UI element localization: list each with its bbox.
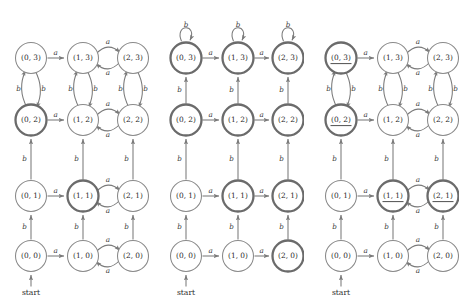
edge-1-1-2-1-a: a <box>406 175 430 192</box>
state-node-2-1[interactable]: (2, 1) <box>273 181 304 212</box>
edge-label-a: a <box>106 99 110 108</box>
state-node-0-2[interactable]: (0, 2) <box>16 105 47 136</box>
edge-1-1-2-1-a: a <box>255 186 270 196</box>
edge-0-3-1-3-a: a <box>203 48 220 58</box>
edge-label-a: a <box>416 68 420 77</box>
edge-label-b: b <box>177 154 182 163</box>
edge-label-a: a <box>260 110 264 119</box>
edge-2-3-1-3-a: a <box>406 62 430 77</box>
state-node-1-3[interactable]: (1, 3) <box>68 43 99 74</box>
state-label: (1, 1) <box>383 191 403 200</box>
start-marker: start <box>177 275 195 297</box>
edge-1-2-2-2-a: a <box>96 99 120 116</box>
state-node-0-3[interactable]: (0, 3) <box>16 43 47 74</box>
state-node-1-2[interactable]: (1, 2) <box>378 105 409 136</box>
state-node-1-0[interactable]: (1, 0) <box>378 241 409 272</box>
start-marker: start <box>22 275 40 297</box>
state-label: (1, 2) <box>228 115 248 124</box>
edge-label-b: b <box>332 222 337 231</box>
state-node-0-0[interactable]: (0, 0) <box>16 241 47 272</box>
state-node-2-1[interactable]: (2, 1) <box>118 181 149 212</box>
edge-label-b: b <box>229 154 234 163</box>
state-node-0-1[interactable]: (0, 1) <box>171 181 202 212</box>
edge-2-0-2-1-b: b <box>124 215 133 240</box>
edge-label-a: a <box>364 246 368 255</box>
edge-label-a: a <box>260 186 264 195</box>
edge-0-1-0-2-b: b <box>332 139 341 180</box>
edge-0-0-0-1-b: b <box>332 215 341 240</box>
state-node-1-3[interactable]: (1, 3) <box>378 43 409 74</box>
edge-label-a: a <box>54 48 58 57</box>
edge-path <box>447 71 452 108</box>
edge-label-b: b <box>434 154 439 163</box>
state-node-2-2[interactable]: (2, 2) <box>273 105 304 136</box>
nodes-layer: start(0, 3)(1, 3)(2, 3)(0, 2)(1, 2)(2, 2… <box>16 43 149 298</box>
edge-label-a: a <box>416 266 420 275</box>
edge-path <box>282 28 294 41</box>
state-label: (0, 0) <box>331 251 351 260</box>
figure-canvas: aaaaaaaaaaaabbbbbbbbbbbbstart(0, 3)(1, 3… <box>0 0 459 304</box>
edge-path <box>406 47 430 54</box>
state-node-1-1[interactable]: (1, 1) <box>223 181 254 212</box>
edge-1-0-1-1-b: b <box>384 215 393 240</box>
state-node-0-1[interactable]: (0, 1) <box>16 181 47 212</box>
edge-0-3-0-2-b: b <box>345 71 356 108</box>
edge-2-3-2-2-b: b <box>447 71 458 108</box>
state-node-2-0[interactable]: (2, 0) <box>118 241 149 272</box>
state-node-1-0[interactable]: (1, 0) <box>223 241 254 272</box>
state-node-2-3[interactable]: (2, 3) <box>118 43 149 74</box>
state-node-0-3[interactable]: (0, 3) <box>171 43 202 74</box>
state-node-1-3[interactable]: (1, 3) <box>223 43 254 74</box>
edge-0-1-1-1-a: a <box>203 186 220 196</box>
state-label: (0, 3) <box>176 53 196 62</box>
edge-path <box>332 71 337 108</box>
edge-1-0-1-1-b: b <box>229 215 238 240</box>
edge-label-a: a <box>364 48 368 57</box>
edge-label-a: a <box>416 130 420 139</box>
edge-2-2-2-3-b: b <box>279 77 288 104</box>
edge-1-3-1-2-b: b <box>397 71 408 108</box>
edge-path <box>406 245 430 252</box>
state-node-2-0[interactable]: (2, 0) <box>428 241 459 272</box>
state-node-2-0[interactable]: (2, 0) <box>273 241 304 272</box>
edge-0-0-0-1-b: b <box>177 215 186 240</box>
edge-2-2-2-3-b: b <box>428 71 439 108</box>
edge-path <box>137 71 142 108</box>
edge-path <box>180 28 192 41</box>
state-node-0-0[interactable]: (0, 0) <box>171 241 202 272</box>
nodes-layer: start(0, 3)(1, 3)(2, 3)(0, 2)(1, 2)(2, 2… <box>171 43 304 298</box>
panel-middle: aaaaaaaaaaaabbbbbbbbbbbbstart(0, 3)(1, 3… <box>155 0 304 304</box>
state-node-0-3[interactable]: (0, 3) <box>326 43 357 74</box>
state-node-0-2[interactable]: (0, 2) <box>326 105 357 136</box>
state-node-0-0[interactable]: (0, 0) <box>326 241 357 272</box>
state-node-1-1[interactable]: (1, 1) <box>378 181 409 212</box>
state-label: (2, 1) <box>433 191 453 200</box>
state-node-2-2[interactable]: (2, 2) <box>118 105 149 136</box>
panel-right: aaaaaaaaaaaabbbbbbbbbbbbstart(0, 3)(1, 3… <box>310 0 459 304</box>
edge-2-2-1-2-a: a <box>406 124 430 139</box>
edge-label-a: a <box>416 37 420 46</box>
edge-label-b: b <box>16 84 21 93</box>
edge-label-b: b <box>184 20 189 29</box>
state-node-1-2[interactable]: (1, 2) <box>223 105 254 136</box>
state-node-2-3[interactable]: (2, 3) <box>273 43 304 74</box>
state-node-0-1[interactable]: (0, 1) <box>326 181 357 212</box>
state-label: (1, 0) <box>228 251 248 260</box>
state-node-2-2[interactable]: (2, 2) <box>428 105 459 136</box>
state-label: (0, 3) <box>21 53 41 62</box>
state-node-1-0[interactable]: (1, 0) <box>68 241 99 272</box>
state-node-1-2[interactable]: (1, 2) <box>68 105 99 136</box>
edge-1-2-2-2-a: a <box>406 99 430 116</box>
state-node-1-1[interactable]: (1, 1) <box>68 181 99 212</box>
edge-0-2-0-3-b: b <box>326 71 337 108</box>
state-node-2-3[interactable]: (2, 3) <box>428 43 459 74</box>
edge-label-a: a <box>209 186 213 195</box>
state-node-0-2[interactable]: (0, 2) <box>171 105 202 136</box>
state-node-2-1[interactable]: (2, 1) <box>428 181 459 212</box>
edge-path <box>406 185 430 192</box>
edge-0-2-1-2-a: a <box>358 110 375 120</box>
edge-0-2-1-2-a: a <box>203 110 220 120</box>
edge-label-a: a <box>209 246 213 255</box>
edge-label-b: b <box>124 154 129 163</box>
nodes-layer: start(0, 3)(1, 3)(2, 3)(0, 2)(1, 2)(2, 2… <box>326 43 459 298</box>
